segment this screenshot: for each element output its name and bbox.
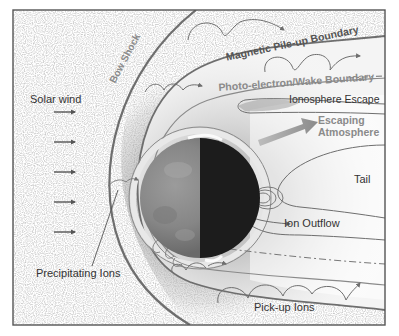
label-precipitating-ions: Precipitating Ions [36,268,120,279]
label-atmosphere: Atmosphere [318,127,379,138]
label-ion-outflow: Ion Outflow [284,218,340,229]
label-pickup-ions: Pick-up Ions [254,302,315,313]
planet [140,138,260,258]
label-escaping: Escaping [318,115,365,126]
label-ionosphere-escape: Ionosphere Escape [289,94,379,105]
label-solar-wind: Solar wind [30,94,81,105]
planet-solar-wind-diagram [0,0,399,336]
label-tail: Tail [354,174,371,185]
